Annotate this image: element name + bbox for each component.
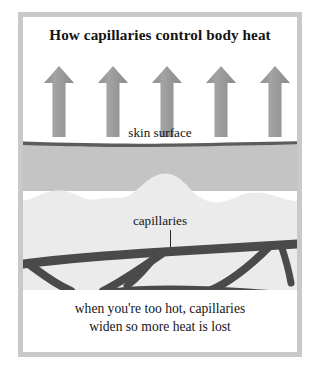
capillary-heat-diagram: How capillaries control body heat [0,0,321,380]
caption-line-1: when you're too hot, capillaries [23,300,297,318]
skin-surface-line [23,139,297,147]
capillaries-label: capillaries [23,213,297,229]
figure-canvas: How capillaries control body heat [23,17,297,352]
figure-caption: when you're too hot, capillaries widen s… [23,300,297,336]
caption-line-2: widen so more heat is lost [23,318,297,336]
figure-title: How capillaries control body heat [23,27,297,44]
figure-frame: How capillaries control body heat [18,12,302,357]
caption-plate: when you're too hot, capillaries widen s… [23,290,297,352]
